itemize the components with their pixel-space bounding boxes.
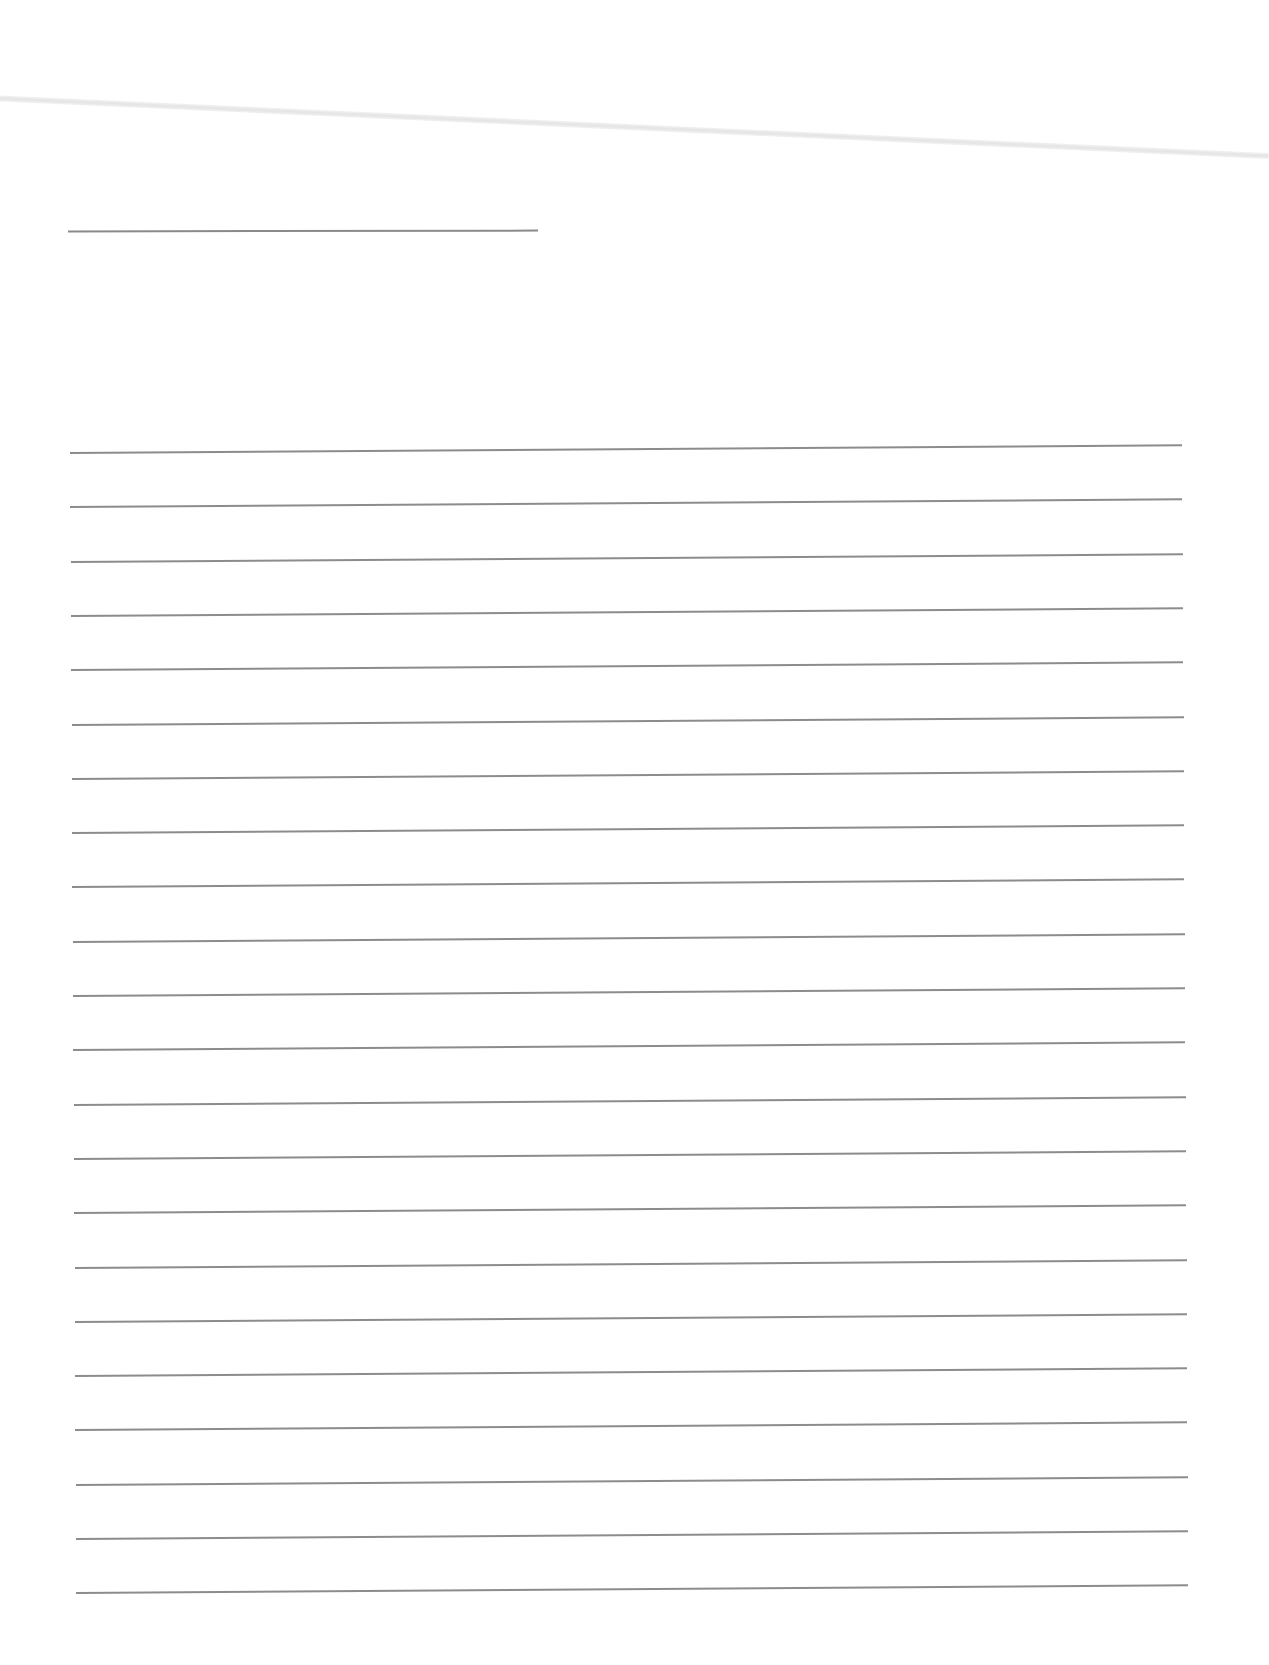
ruled-line xyxy=(72,716,1184,726)
ruled-line xyxy=(76,1476,1188,1486)
ruled-line xyxy=(75,1259,1187,1269)
ruled-line xyxy=(75,1367,1187,1377)
ruled-line xyxy=(75,1313,1187,1323)
ruled-line xyxy=(73,987,1185,997)
ruled-line xyxy=(71,661,1183,671)
ruled-line xyxy=(71,607,1183,617)
ruled-line xyxy=(73,1042,1185,1052)
title-underline xyxy=(68,230,538,233)
ruled-line xyxy=(75,1422,1187,1432)
ruled-line xyxy=(72,770,1184,780)
ruled-line xyxy=(72,879,1184,889)
ruled-line xyxy=(76,1530,1188,1540)
ruled-line xyxy=(70,499,1182,509)
ruled-line xyxy=(73,933,1185,943)
ruled-line xyxy=(71,553,1183,563)
paper-fold-shadow xyxy=(0,95,1269,159)
ruled-line xyxy=(74,1096,1186,1106)
ruled-line xyxy=(74,1204,1186,1214)
ruled-line xyxy=(74,1150,1186,1160)
ruled-line xyxy=(76,1585,1188,1595)
ruled-line xyxy=(72,824,1184,834)
ruled-line xyxy=(70,444,1182,454)
